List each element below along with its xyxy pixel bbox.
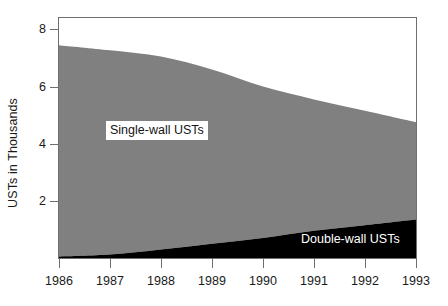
x-tick-mark-1989 <box>212 259 213 268</box>
x-tick-mark-1991 <box>314 259 315 268</box>
y-tick-label-2: 2 <box>20 195 46 207</box>
x-tick-label-1993: 1993 <box>386 274 446 288</box>
x-tick-mark-1988 <box>161 259 162 268</box>
y-tick-label-6: 6 <box>20 81 46 93</box>
y-tick-mark-8 <box>50 29 59 30</box>
y-axis-tick-labels: 8642 <box>20 0 46 306</box>
legend-label-double-wall: Double-wall USTs <box>301 232 400 247</box>
x-tick-mark-1987 <box>110 259 111 268</box>
y-tick-label-4: 4 <box>20 138 46 150</box>
y-tick-mark-4 <box>50 144 59 145</box>
x-tick-mark-1993 <box>416 259 417 268</box>
x-tick-mark-1986 <box>59 259 60 268</box>
single-wall-area <box>59 45 416 256</box>
area-chart: USTs in Thousands 8642 Single-wall USTs … <box>0 0 448 306</box>
x-tick-mark-1990 <box>263 259 264 268</box>
y-tick-mark-2 <box>50 201 59 202</box>
y-tick-mark-6 <box>50 87 59 88</box>
legend-label-single-wall: Single-wall USTs <box>106 121 208 140</box>
x-tick-mark-1992 <box>365 259 366 268</box>
y-tick-label-8: 8 <box>20 23 46 35</box>
